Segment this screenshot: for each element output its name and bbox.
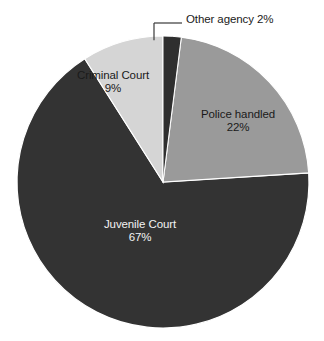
pie-label-police-handled-name: Police handled (186, 108, 290, 121)
pie-chart: Other agency 2% Police handled 22% Crimi… (0, 0, 324, 341)
pie-chart-canvas (0, 0, 324, 341)
pie-label-criminal-court: Criminal Court 9% (57, 69, 169, 96)
pie-label-juvenile-court-name: Juvenile Court (84, 218, 196, 231)
pie-label-juvenile-court: Juvenile Court 67% (84, 218, 196, 245)
pie-label-police-handled: Police handled 22% (186, 108, 290, 135)
pie-label-other-agency: Other agency 2% (186, 13, 273, 25)
pie-label-criminal-court-value: 9% (57, 82, 169, 95)
pie-label-juvenile-court-value: 67% (84, 231, 196, 244)
pie-label-police-handled-value: 22% (186, 121, 290, 134)
pie-label-criminal-court-name: Criminal Court (57, 69, 169, 82)
